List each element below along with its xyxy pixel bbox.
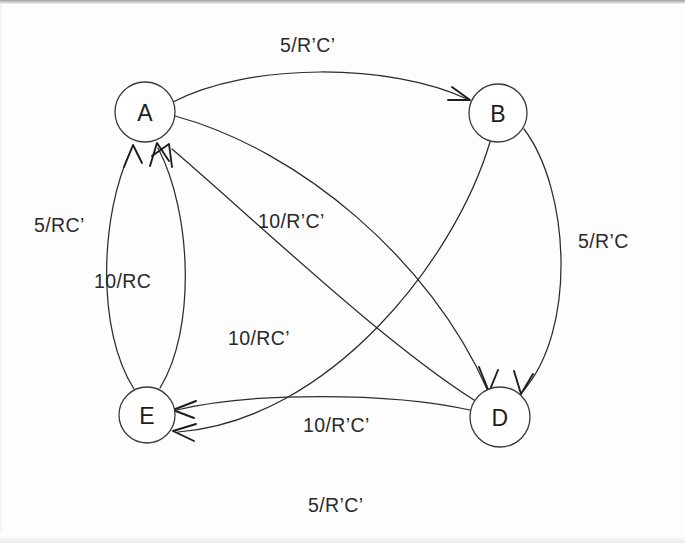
edge-a-to-b-arrowhead — [448, 87, 470, 100]
edge-label-a-to-b: 5/R’C’ — [280, 34, 336, 56]
edge-label-d-to-e: 10/R’C’ — [303, 414, 370, 436]
edge-label-b-to-e: 5/R’C’ — [308, 494, 364, 516]
edge-b-to-d[interactable] — [514, 129, 561, 394]
node-d-label: D — [492, 405, 509, 431]
node-e[interactable]: E — [119, 387, 175, 443]
edge-e-to-a-right[interactable] — [150, 143, 185, 388]
edge-label-e-to-a-left: 5/RC’ — [34, 214, 85, 236]
edge-e-to-a-left[interactable] — [107, 145, 142, 389]
node-b-label: B — [490, 101, 506, 127]
diagram-canvas: A B D E 5/R’C’ 5/R’C 5/R’C’ 10/R’C’ 10/R… — [0, 0, 685, 543]
edge-b-to-d-path — [523, 129, 561, 391]
edge-a-to-b-path — [173, 72, 467, 102]
edge-d-to-a-path — [172, 149, 474, 400]
edge-label-e-to-a-right: 10/RC — [94, 270, 151, 292]
edge-e-to-a-right-path — [158, 148, 185, 388]
edge-label-b-to-d: 5/R’C — [578, 230, 629, 252]
node-a-label: A — [137, 100, 153, 126]
edge-b-to-e-arrowhead — [173, 424, 196, 441]
edge-label-a-to-d: 10/R’C’ — [258, 210, 325, 232]
edge-a-to-d[interactable] — [175, 116, 498, 392]
node-a[interactable]: A — [115, 82, 175, 142]
edge-d-to-e-path — [177, 397, 470, 411]
node-b[interactable]: B — [469, 84, 527, 142]
state-transition-diagram: A B D E 5/R’C’ 5/R’C 5/R’C’ 10/R’C’ 10/R… — [0, 0, 685, 543]
edge-label-d-to-a: 10/RC’ — [228, 327, 290, 349]
edge-e-to-a-left-arrowhead — [124, 145, 142, 167]
node-e-label: E — [139, 403, 155, 429]
edge-b-to-e-path — [178, 142, 490, 432]
edge-d-to-e-arrowhead — [173, 401, 196, 418]
edge-a-to-d-path — [175, 116, 487, 389]
node-d[interactable]: D — [470, 387, 530, 447]
edge-a-to-b[interactable] — [173, 72, 470, 102]
